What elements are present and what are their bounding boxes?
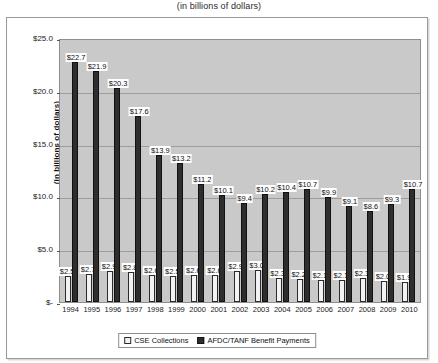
bar-afdc-2010[interactable]: $10.7 (409, 189, 415, 302)
bar-cse-1996[interactable]: $2.9 (107, 271, 113, 302)
bar-cse-2000[interactable]: $2.6 (191, 275, 197, 302)
bar-afdc-1999[interactable]: $13.2 (177, 163, 183, 302)
x-axis-tick-label: 1996 (102, 305, 123, 314)
x-axis-tick-label: 2007 (335, 305, 356, 314)
bar-group: $2.0$9.3 (377, 40, 398, 302)
bar-group: $2.1$9.1 (335, 40, 356, 302)
bar-afdc-1995[interactable]: $21.9 (93, 71, 99, 302)
chart-legend: CSE Collections AFDC/TANF Benefit Paymen… (118, 333, 316, 348)
bar-cse-2002[interactable]: $2.9 (234, 271, 240, 302)
x-axis-tick-label: 2001 (208, 305, 229, 314)
bar-cse-2007[interactable]: $2.1 (339, 280, 345, 302)
x-axis-tick-label: 2010 (399, 305, 420, 314)
x-axis-tick-label: 2004 (272, 305, 293, 314)
bar-group: $2.1$9.9 (314, 40, 335, 302)
bar-cse-2009[interactable]: $2.0 (381, 281, 387, 302)
x-axis-tick-label: 2006 (314, 305, 335, 314)
bar-group: $2.2$10.7 (293, 40, 314, 302)
bar-afdc-2003[interactable]: $10.2 (262, 194, 268, 302)
bar-value-label: $10.7 (403, 180, 424, 189)
bar-cse-1995[interactable]: $2.7 (86, 274, 92, 303)
bar-cse-2001[interactable]: $2.6 (212, 275, 218, 302)
x-axis-tick-label: 2000 (187, 305, 208, 314)
y-axis-tick-label: $- (19, 298, 53, 307)
bar-afdc-2002[interactable]: $9.4 (241, 203, 247, 302)
y-axis-tick-label: $15.0 (19, 140, 53, 149)
y-axis-tick-label: $20.0 (19, 87, 53, 96)
legend-label-cse-collections: CSE Collections (134, 336, 188, 345)
bar-afdc-1996[interactable]: $20.3 (114, 88, 120, 302)
bar-group: $2.5$22.7 (61, 40, 82, 302)
light-swatch-icon (124, 337, 131, 344)
bar-cse-2006[interactable]: $2.1 (318, 280, 324, 302)
x-axis-tick-label: 2008 (356, 305, 377, 314)
bar-afdc-1994[interactable]: $22.7 (72, 62, 78, 302)
bar-groups: $2.5$22.7$2.7$21.9$2.9$20.3$2.8$17.6$2.6… (60, 40, 420, 302)
y-axis-tick-label: $10.0 (19, 192, 53, 201)
bar-afdc-2004[interactable]: $10.4 (283, 192, 289, 302)
bar-afdc-1998[interactable]: $13.9 (156, 155, 162, 302)
bar-cse-1998[interactable]: $2.6 (149, 275, 155, 302)
chart-frame: (in billions of dollars) $25.0$20.0$15.0… (6, 17, 428, 359)
x-axis-tick-label: 1995 (81, 305, 102, 314)
bar-afdc-2008[interactable]: $8.6 (367, 211, 373, 302)
x-axis-tick-label: 2003 (251, 305, 272, 314)
bar-afdc-2000[interactable]: $11.2 (198, 184, 204, 302)
bar-cse-2008[interactable]: $2.3 (360, 278, 366, 302)
x-axis-tick-label: 2009 (378, 305, 399, 314)
bar-afdc-2009[interactable]: $9.3 (388, 204, 394, 302)
chart-subtitle: (in billions of dollars) (0, 1, 438, 11)
bar-cse-1997[interactable]: $2.8 (128, 272, 134, 302)
x-axis-tick-label: 1998 (145, 305, 166, 314)
y-axis-tick-label: $25.0 (19, 34, 53, 43)
bar-cse-2004[interactable]: $2.3 (276, 278, 282, 302)
x-axis-tick-label: 1999 (166, 305, 187, 314)
bar-afdc-2001[interactable]: $10.1 (219, 195, 225, 302)
bar-group: $2.8$17.6 (124, 40, 145, 302)
plot-area: $2.5$22.7$2.7$21.9$2.9$20.3$2.8$17.6$2.6… (59, 39, 421, 303)
bar-cse-2010[interactable]: $1.9 (402, 282, 408, 302)
bar-group: $2.3$10.4 (272, 40, 293, 302)
legend-label-afdc-tanf-benefit-payments: AFDC/TANF Benefit Payments (207, 336, 309, 345)
legend-item-cse-collections: CSE Collections (124, 336, 188, 345)
chart-container: (in billions of dollars) (in billions of… (0, 0, 438, 363)
bar-afdc-1997[interactable]: $17.6 (135, 116, 141, 302)
x-axis-tick-label: 1997 (124, 305, 145, 314)
y-axis-tick-label: $5.0 (19, 245, 53, 254)
bar-group: $2.3$8.6 (356, 40, 377, 302)
bar-group: $2.6$11.2 (187, 40, 208, 302)
x-axis-tick-label: 1994 (60, 305, 81, 314)
bar-group: $1.9$10.7 (398, 40, 419, 302)
bar-cse-1999[interactable]: $2.5 (170, 276, 176, 302)
bar-cse-1994[interactable]: $2.5 (65, 276, 71, 302)
x-axis-tick-label: 2005 (293, 305, 314, 314)
dark-swatch-icon (197, 337, 204, 344)
bar-cse-2003[interactable]: $3.0 (255, 270, 261, 302)
bar-afdc-2006[interactable]: $9.9 (325, 197, 331, 302)
x-axis-tick-label: 2002 (229, 305, 250, 314)
legend-item-afdc-tanf-benefit-payments: AFDC/TANF Benefit Payments (197, 336, 309, 345)
bar-group: $2.6$13.9 (145, 40, 166, 302)
bar-afdc-2007[interactable]: $9.1 (346, 206, 352, 302)
bar-afdc-2005[interactable]: $10.7 (304, 189, 310, 302)
bar-group: $3.0$10.2 (251, 40, 272, 302)
bar-cse-2005[interactable]: $2.2 (297, 279, 303, 302)
bar-group: $2.5$13.2 (166, 40, 187, 302)
x-axis-tick-labels: 1994199519961997199819992000200120022003… (59, 305, 421, 314)
